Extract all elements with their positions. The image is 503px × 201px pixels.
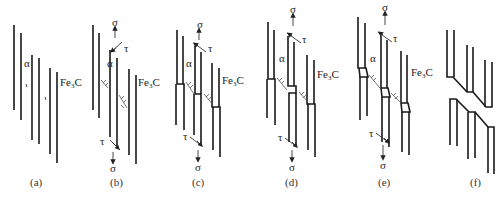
tau-bottom: τ bbox=[183, 130, 188, 142]
fe3c-label: Fe3C bbox=[60, 76, 82, 90]
sigma-top: σ bbox=[382, 1, 388, 13]
alpha-label: α bbox=[24, 57, 30, 69]
caption-a: (a) bbox=[30, 176, 43, 189]
panel-a: α Fe3C (a) bbox=[14, 25, 82, 189]
panel-c: σ τ τ σ α Fe3C (c) bbox=[176, 18, 244, 189]
sigma-bottom: σ bbox=[195, 161, 201, 173]
alpha-label: α bbox=[186, 57, 192, 69]
caption-b: (b) bbox=[110, 176, 123, 189]
sigma-top: σ bbox=[290, 3, 296, 15]
figure-canvas: α Fe3C (a) σ τ τ σ α Fe3C (b) bbox=[0, 0, 503, 201]
dislocation-marks bbox=[101, 80, 127, 108]
tau-bottom: τ bbox=[278, 131, 283, 143]
fe3c-label: Fe3C bbox=[222, 74, 244, 88]
panel-d: σ τ τ σ α Fe3C (d) bbox=[267, 3, 339, 189]
tau-bottom: τ bbox=[369, 127, 374, 139]
caption-e: (e) bbox=[378, 176, 391, 189]
sigma-bottom: σ bbox=[289, 161, 295, 173]
alpha-label: α bbox=[370, 52, 376, 64]
tau-top: τ bbox=[393, 32, 398, 44]
alpha-label: α bbox=[107, 57, 113, 69]
fe3c-label: Fe3C bbox=[317, 68, 339, 82]
tau-top: τ bbox=[208, 42, 213, 54]
panel-f: (f) bbox=[447, 30, 494, 189]
fe3c-label: Fe3C bbox=[411, 66, 433, 80]
sigma-bottom: σ bbox=[110, 162, 116, 174]
tau-top: τ bbox=[302, 33, 307, 45]
caption-d: (d) bbox=[285, 176, 298, 189]
tau-top: τ bbox=[124, 42, 129, 54]
caption-c: (c) bbox=[192, 176, 205, 189]
fe3c-label: Fe3C bbox=[138, 76, 160, 90]
sigma-top: σ bbox=[112, 16, 118, 28]
tau-bottom: τ bbox=[100, 135, 105, 147]
caption-f: (f) bbox=[470, 176, 481, 189]
sigma-top: σ bbox=[197, 18, 203, 30]
sigma-bottom: σ bbox=[380, 159, 386, 171]
panel-e: σ τ τ σ α Fe3C (e) bbox=[358, 1, 433, 189]
panel-b: σ τ τ σ α Fe3C (b) bbox=[93, 16, 160, 189]
alpha-label: α bbox=[279, 52, 285, 64]
